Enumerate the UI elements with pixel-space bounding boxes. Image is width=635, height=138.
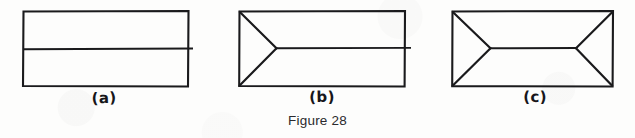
figure-panel-c	[452, 11, 613, 87]
panel-label-b: (b)	[290, 87, 354, 106]
panel-a-midline	[23, 48, 193, 49]
panel-b-left-fin-lower	[240, 48, 277, 85]
panel-c-right-fin-upper	[576, 12, 612, 48]
panel-c-left-fin-upper	[453, 12, 491, 48]
figure-caption: Figure 28	[0, 113, 635, 128]
panel-b-left-fin-upper	[240, 12, 277, 48]
figure-sheet: (a) (b) (c) Figure 28	[0, 0, 635, 138]
figure-panel-b	[239, 11, 411, 87]
panel-c-right-fin-lower	[576, 48, 612, 86]
panel-label-c: (c)	[503, 88, 567, 107]
panel-label-a: (a)	[72, 88, 137, 108]
figure-panel-a	[23, 11, 193, 87]
panel-c-left-fin-lower	[453, 48, 491, 86]
